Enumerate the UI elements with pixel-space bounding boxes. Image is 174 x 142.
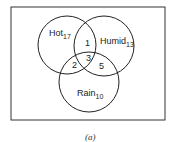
hot-humid-count: 1 <box>85 38 90 48</box>
figure-caption: (a) <box>85 132 96 142</box>
humid-rain-count: 5 <box>99 61 104 71</box>
universe-rectangle <box>11 7 165 120</box>
venn-diagram: Hot17 Humid13 Rain10 1 2 3 5 (a) <box>0 0 174 142</box>
hot-label: Hot17 <box>49 28 71 40</box>
humid-label: Humid13 <box>100 36 134 48</box>
hot-rain-count: 2 <box>72 60 77 70</box>
rain-label: Rain10 <box>77 88 103 100</box>
all-three-count: 3 <box>86 53 91 63</box>
